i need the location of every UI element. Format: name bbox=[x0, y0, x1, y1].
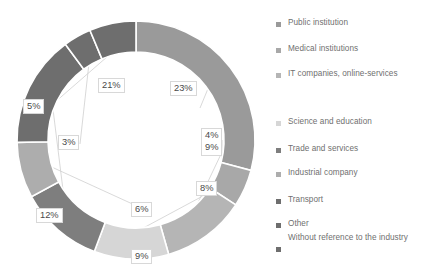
legend-swatch-icon bbox=[276, 148, 281, 153]
legend-item-label: Transport bbox=[288, 195, 323, 206]
chart-legend: Public institution Medical institutions … bbox=[274, 0, 425, 280]
legend-item-medical-institutions[interactable]: Medical institutions bbox=[276, 44, 425, 55]
data-label-5: 5% bbox=[23, 99, 44, 114]
legend-item-label: Public institution bbox=[288, 18, 348, 29]
legend-item-industrial-company[interactable]: Industrial company bbox=[276, 168, 425, 179]
legend-swatch-icon bbox=[276, 22, 281, 27]
donut-slice[interactable] bbox=[136, 21, 255, 170]
data-label-9-it: 9% bbox=[205, 142, 218, 154]
data-label-12: 12% bbox=[36, 208, 63, 223]
legend-item-science-and-education[interactable]: Science and education bbox=[276, 117, 425, 128]
legend-item-label: Science and education bbox=[288, 117, 372, 128]
legend-swatch-icon bbox=[276, 172, 281, 177]
legend-item-label: Without reference to the industry bbox=[288, 233, 408, 244]
data-label-21: 21% bbox=[98, 78, 125, 93]
legend-item-without-reference[interactable]: Without reference to the industry bbox=[276, 233, 425, 252]
data-label-23: 23% bbox=[170, 81, 197, 96]
legend-item-label: Trade and services bbox=[288, 144, 358, 155]
data-label-8: 8% bbox=[196, 181, 217, 196]
legend-item-label: Industrial company bbox=[288, 168, 358, 179]
donut-chart-svg bbox=[0, 0, 272, 280]
data-label-6: 6% bbox=[131, 202, 152, 217]
legend-item-label: IT companies, online-services bbox=[288, 69, 398, 80]
data-label-3: 3% bbox=[58, 135, 79, 150]
legend-swatch-icon bbox=[276, 48, 281, 53]
donut-slice[interactable] bbox=[17, 44, 84, 142]
legend-item-it-companies[interactable]: IT companies, online-services bbox=[276, 69, 425, 80]
legend-item-label: Other bbox=[288, 219, 309, 230]
legend-item-trade-and-services[interactable]: Trade and services bbox=[276, 144, 425, 155]
donut-slice[interactable] bbox=[160, 188, 236, 254]
legend-swatch-icon bbox=[276, 73, 281, 78]
legend-item-transport[interactable]: Transport bbox=[276, 195, 425, 206]
legend-item-other[interactable]: Other bbox=[276, 219, 425, 230]
data-label-4: 4% bbox=[205, 130, 218, 142]
legend-swatch-icon bbox=[276, 199, 281, 204]
legend-item-public-institution[interactable]: Public institution bbox=[276, 18, 425, 29]
legend-item-label: Medical institutions bbox=[288, 44, 358, 55]
legend-swatch-icon bbox=[276, 247, 281, 252]
data-label-4-9: 4% 9% bbox=[201, 128, 222, 156]
legend-swatch-icon bbox=[276, 121, 281, 126]
data-label-9-bottom: 9% bbox=[131, 249, 152, 264]
legend-swatch-icon bbox=[276, 223, 281, 228]
donut-chart: 21% 23% 5% 3% 12% 4% 9% 8% 6% 9% bbox=[0, 0, 272, 280]
